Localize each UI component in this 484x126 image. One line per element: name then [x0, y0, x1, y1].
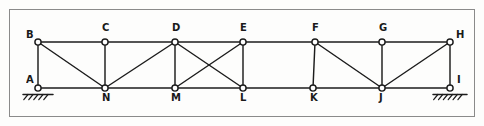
truss-node-j — [379, 85, 385, 91]
truss-diagram-svg — [0, 0, 484, 126]
support-hatch-tick — [439, 95, 443, 100]
truss-member-b-n — [38, 42, 105, 88]
truss-node-h — [447, 39, 453, 45]
node-label-n: N — [102, 92, 110, 103]
truss-node-g — [379, 39, 385, 45]
truss-node-a — [35, 85, 41, 91]
truss-node-l — [240, 85, 246, 91]
truss-node-i — [447, 85, 453, 91]
node-label-m: M — [171, 92, 181, 103]
node-label-c: C — [102, 22, 109, 33]
truss-member-j-h — [382, 42, 450, 88]
support-hatch-tick — [44, 95, 48, 100]
node-label-i: I — [457, 74, 461, 85]
truss-node-m — [172, 85, 178, 91]
support-hatch-tick — [448, 95, 452, 100]
support-hatch-tick — [453, 95, 457, 100]
truss-diagram-canvas: ABCDEFGHIJKLMN — [0, 0, 484, 126]
truss-members-group — [38, 42, 450, 88]
truss-node-n — [102, 85, 108, 91]
node-label-j: J — [379, 92, 383, 103]
truss-member-f-k — [313, 42, 315, 88]
truss-node-c — [102, 39, 108, 45]
node-label-l: L — [240, 92, 246, 103]
truss-node-f — [312, 39, 318, 45]
truss-node-b — [35, 39, 41, 45]
node-label-f: F — [312, 22, 319, 33]
truss-member-n-d — [105, 42, 175, 88]
support-hatch-tick — [34, 95, 38, 100]
support-a-pin — [23, 95, 53, 100]
support-i-pin — [433, 95, 467, 100]
support-hatch-tick — [443, 95, 447, 100]
support-hatch-tick — [39, 95, 43, 100]
node-label-d: D — [172, 22, 180, 33]
node-label-h: H — [456, 29, 464, 40]
truss-node-d — [172, 39, 178, 45]
truss-member-f-j — [315, 42, 382, 88]
node-label-a: A — [26, 74, 34, 85]
node-label-e: E — [240, 22, 247, 33]
node-label-g: G — [379, 22, 387, 33]
support-hatch-tick — [24, 95, 28, 100]
node-label-b: B — [26, 29, 34, 40]
truss-node-k — [310, 85, 316, 91]
support-hatch-tick — [29, 95, 33, 100]
support-hatch-tick — [434, 95, 438, 100]
support-hatch-tick — [458, 95, 462, 100]
truss-node-e — [240, 39, 246, 45]
node-label-k: K — [310, 92, 318, 103]
